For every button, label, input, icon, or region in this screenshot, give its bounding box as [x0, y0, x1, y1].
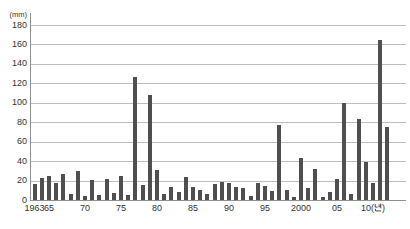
gridline-20 — [30, 181, 406, 182]
bar-chart: (mm) 02040608010012014016018019636570758… — [0, 0, 410, 229]
bar-1966 — [54, 183, 58, 200]
bar-1995 — [263, 186, 267, 200]
bar-1984 — [184, 177, 188, 200]
bar-2011 — [378, 40, 382, 200]
gridline-100 — [30, 103, 406, 104]
y-axis-unit-label: (mm) — [0, 10, 27, 19]
y-tick-label-60: 60 — [0, 136, 27, 147]
bar-1978 — [141, 185, 145, 200]
y-tick-label-20: 20 — [0, 175, 27, 186]
bar-1990 — [227, 183, 231, 201]
bar-1969 — [76, 171, 80, 200]
y-tick-label-140: 140 — [0, 58, 27, 69]
gridline-40 — [30, 161, 406, 162]
x-tick-label-2005: 05 — [332, 203, 342, 214]
bar-1975 — [119, 176, 123, 200]
x-tick-label-1990: 90 — [224, 203, 234, 214]
y-tick-label-40: 40 — [0, 156, 27, 167]
bar-1973 — [105, 179, 109, 200]
x-tick-label-1970: 70 — [80, 203, 90, 214]
bar-1963 — [33, 184, 37, 200]
bar-1991 — [234, 187, 238, 200]
bar-1986 — [198, 190, 202, 200]
gridline-180 — [30, 25, 406, 26]
bar-2000 — [299, 158, 303, 200]
gridline-60 — [30, 142, 406, 143]
bar-1987 — [205, 194, 209, 200]
bar-1982 — [169, 187, 173, 200]
x-tick-label-1980: 80 — [152, 203, 162, 214]
bar-1994 — [256, 183, 260, 201]
bar-2003 — [321, 197, 325, 200]
gridline-160 — [30, 44, 406, 45]
bar-1974 — [112, 193, 116, 200]
bar-2008 — [357, 119, 361, 200]
gridline-80 — [30, 122, 406, 123]
bar-1988 — [213, 184, 217, 200]
bar-1971 — [90, 180, 94, 200]
y-tick-label-180: 180 — [0, 20, 27, 31]
x-tick-label-2010: 10() — [361, 203, 385, 214]
bar-1985 — [191, 187, 195, 200]
x-tick-label-1985: 85 — [188, 203, 198, 214]
bar-1968 — [69, 194, 73, 200]
x-tick-label-2000: 2000 — [291, 203, 311, 214]
hangul-nyeon-glyph — [374, 203, 382, 212]
y-tick-label-100: 100 — [0, 97, 27, 108]
y-tick-label-120: 120 — [0, 78, 27, 89]
bar-1981 — [162, 194, 166, 200]
bar-2004 — [328, 192, 332, 200]
y-tick-label-80: 80 — [0, 117, 27, 128]
gridline-120 — [30, 83, 406, 84]
bar-1997 — [277, 125, 281, 200]
x-axis-line — [30, 200, 406, 201]
bar-1998 — [285, 190, 289, 200]
bar-1999 — [292, 197, 296, 200]
bar-1992 — [241, 188, 245, 200]
bar-2006 — [342, 103, 346, 200]
bar-1979 — [148, 95, 152, 200]
bar-2002 — [313, 169, 317, 200]
bar-2010 — [371, 183, 375, 201]
bar-2009 — [364, 162, 368, 200]
bar-1993 — [249, 196, 253, 200]
bar-1977 — [133, 77, 137, 200]
bar-1996 — [270, 191, 274, 200]
bar-1965 — [47, 176, 51, 200]
bar-1976 — [126, 195, 130, 200]
bar-1980 — [155, 170, 159, 200]
bar-2012 — [385, 127, 389, 200]
bar-1967 — [61, 174, 65, 200]
x-tick-label-1963: 1963 — [24, 203, 44, 214]
y-axis-line — [30, 13, 31, 200]
bar-2007 — [349, 194, 353, 200]
y-tick-label-160: 160 — [0, 39, 27, 50]
x-tick-label-1965: 65 — [44, 203, 54, 214]
bar-1983 — [177, 192, 181, 200]
bar-2005 — [335, 179, 339, 200]
x-tick-label-1995: 95 — [260, 203, 270, 214]
gridline-140 — [30, 64, 406, 65]
y-tick-label-0: 0 — [0, 195, 27, 206]
x-tick-label-1975: 75 — [116, 203, 126, 214]
bar-1970 — [83, 196, 87, 200]
bar-1972 — [97, 195, 101, 200]
bar-1964 — [40, 178, 44, 200]
bar-2001 — [306, 188, 310, 200]
bar-1989 — [220, 182, 224, 200]
